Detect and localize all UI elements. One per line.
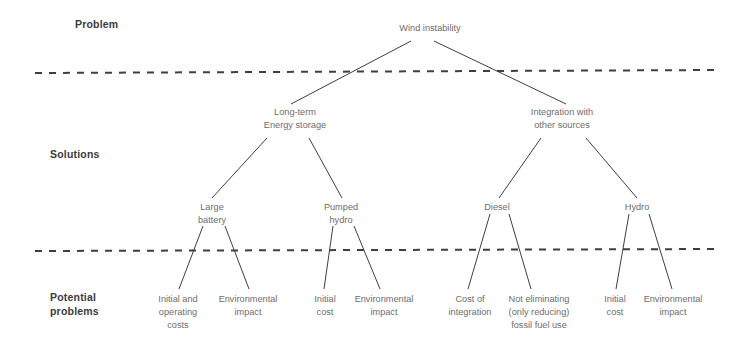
node-wind-instability[interactable]: Wind instability bbox=[399, 22, 460, 35]
tier-potential-problems: Potential problems bbox=[50, 290, 99, 318]
connector-line bbox=[309, 138, 342, 198]
diagram-canvas: ProblemSolutionsPotential problems Wind … bbox=[0, 0, 735, 351]
node-environmental-impact-battery[interactable]: Environmental impact bbox=[219, 293, 278, 319]
node-initial-cost-hydro[interactable]: Initial cost bbox=[604, 293, 625, 319]
tier-solutions: Solutions bbox=[50, 147, 100, 161]
connector-line bbox=[509, 214, 531, 289]
connector-line bbox=[212, 138, 267, 198]
tier-problem: Problem bbox=[75, 17, 118, 31]
node-diesel[interactable]: Diesel bbox=[484, 201, 510, 214]
dashed-divider-line bbox=[35, 249, 716, 251]
node-long-term-energy-storage[interactable]: Long-term Energy storage bbox=[264, 106, 326, 132]
connector-line bbox=[649, 214, 672, 289]
node-initial-cost-pumped[interactable]: Initial cost bbox=[314, 293, 335, 319]
node-hydro[interactable]: Hydro bbox=[625, 201, 650, 214]
node-environmental-impact-pumped[interactable]: Environmental impact bbox=[355, 293, 414, 319]
dashed-divider-line bbox=[35, 70, 716, 73]
node-large-battery[interactable]: Large battery bbox=[198, 201, 226, 227]
connector-line bbox=[225, 226, 249, 289]
connector-line bbox=[468, 214, 490, 289]
connector-line bbox=[354, 226, 380, 289]
node-initial-operating-costs[interactable]: Initial and operating costs bbox=[158, 293, 197, 332]
connector-line bbox=[324, 226, 333, 289]
connector-line bbox=[499, 138, 541, 198]
connector-line bbox=[586, 138, 637, 198]
connector-line bbox=[179, 226, 203, 289]
connector-line bbox=[291, 41, 411, 104]
node-not-eliminating-fossil[interactable]: Not eliminating (only reducing) fossil f… bbox=[509, 293, 570, 332]
node-environmental-impact-hydro[interactable]: Environmental impact bbox=[644, 293, 703, 319]
node-integration-other-sources[interactable]: Integration with other sources bbox=[531, 106, 593, 132]
connector-line bbox=[616, 214, 629, 289]
connector-line bbox=[434, 41, 566, 104]
node-cost-of-integration[interactable]: Cost of integration bbox=[449, 293, 492, 319]
node-pumped-hydro[interactable]: Pumped hydro bbox=[324, 201, 358, 227]
